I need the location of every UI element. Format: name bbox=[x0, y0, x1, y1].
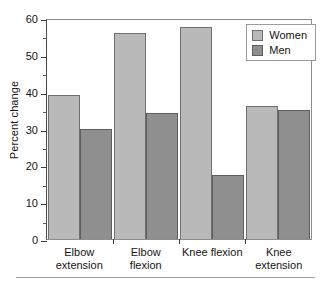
x-tick-label-line: flexion bbox=[113, 259, 180, 272]
x-tick-label-line: extension bbox=[246, 259, 313, 272]
y-tick-mark bbox=[41, 131, 47, 132]
x-axis-tick-labels: ElbowextensionElbowflexionKnee flexionKn… bbox=[46, 246, 312, 272]
x-tick-label-line: Elbow bbox=[113, 246, 180, 259]
x-tick-label-line: Knee bbox=[246, 246, 313, 259]
y-minor-tick-mark bbox=[43, 38, 47, 39]
bar bbox=[246, 106, 278, 239]
x-tick-mark bbox=[245, 239, 246, 244]
bar-group bbox=[47, 20, 113, 239]
x-tick-label: Knee flexion bbox=[179, 246, 246, 272]
y-tick-mark bbox=[41, 57, 47, 58]
x-tick-label: Elbowflexion bbox=[113, 246, 180, 272]
legend-label: Men bbox=[269, 44, 290, 56]
legend-swatch-icon bbox=[252, 45, 263, 56]
y-tick-label: 40 bbox=[26, 87, 38, 99]
y-tick-label: 30 bbox=[26, 124, 38, 136]
x-tick-label: Kneeextension bbox=[246, 246, 313, 272]
bar-group bbox=[179, 20, 245, 239]
legend-label: Women bbox=[269, 29, 307, 41]
x-tick-mark bbox=[179, 239, 180, 244]
y-tick-mark bbox=[41, 204, 47, 205]
bar bbox=[180, 27, 212, 239]
bar bbox=[278, 110, 310, 239]
legend-item: Women bbox=[252, 29, 307, 41]
y-minor-tick-mark bbox=[43, 223, 47, 224]
x-tick-mark bbox=[113, 239, 114, 244]
x-tick-label-line: Knee flexion bbox=[179, 246, 246, 259]
bar bbox=[114, 33, 146, 239]
x-tick-label: Elbowextension bbox=[46, 246, 113, 272]
bar-chart-figure: Percent change 0102030405060 Elbowextens… bbox=[0, 0, 325, 288]
bar bbox=[146, 113, 178, 239]
bar-group bbox=[113, 20, 179, 239]
y-tick-mark bbox=[41, 167, 47, 168]
bottom-divider bbox=[16, 277, 315, 278]
y-tick-label: 50 bbox=[26, 50, 38, 62]
y-tick-label: 10 bbox=[26, 197, 38, 209]
y-tick-label: 0 bbox=[32, 234, 38, 246]
legend-item: Men bbox=[252, 44, 307, 56]
y-minor-tick-mark bbox=[43, 112, 47, 113]
y-axis-tick-labels: 0102030405060 bbox=[0, 19, 46, 240]
y-tick-mark bbox=[41, 94, 47, 95]
y-minor-tick-mark bbox=[43, 149, 47, 150]
y-minor-tick-mark bbox=[43, 75, 47, 76]
x-tick-label-line: extension bbox=[46, 259, 113, 272]
x-tick-label-line: Elbow bbox=[46, 246, 113, 259]
y-minor-tick-mark bbox=[43, 186, 47, 187]
y-tick-label: 20 bbox=[26, 160, 38, 172]
y-tick-mark bbox=[41, 20, 47, 21]
legend: WomenMen bbox=[246, 24, 316, 61]
bar bbox=[48, 95, 80, 239]
y-tick-mark bbox=[41, 241, 47, 242]
legend-swatch-icon bbox=[252, 30, 263, 41]
bar bbox=[212, 175, 244, 239]
bar bbox=[80, 129, 112, 240]
y-tick-label: 60 bbox=[26, 13, 38, 25]
